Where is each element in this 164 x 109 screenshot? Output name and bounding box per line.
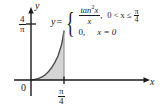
origin-label: 0 — [21, 82, 26, 93]
case-1-expression: tan2x x , — [79, 6, 105, 25]
case-2-condition: x = 0 — [97, 28, 116, 37]
equation-case-2: 0, x = 0 — [79, 28, 140, 37]
y-tick-fraction: 4 π — [19, 15, 26, 34]
y-tick-denominator: π — [19, 25, 26, 34]
equation-cases: tan2x x , 0 < x ≤ π 4 0, x = 0 — [79, 6, 140, 37]
y-tick-label: 4 π — [19, 14, 26, 34]
case-1-comma: , — [100, 11, 102, 20]
case-1-condition-fraction: π 4 — [134, 8, 140, 24]
x-axis-label: x — [150, 76, 154, 87]
x-tick-label: π 4 — [58, 86, 65, 106]
fraction-denominator: x — [79, 16, 101, 25]
equation-brace: { — [66, 10, 75, 33]
equation-case-1: tan2x x , 0 < x ≤ π 4 — [79, 6, 140, 25]
case-2-value: 0, — [79, 28, 86, 37]
equation-equals-sign: = — [56, 16, 62, 27]
function-graph-figure: y x 0 4 π π 4 y = { tan2x x — [0, 0, 164, 109]
case-1-condition-denominator: 4 — [134, 16, 140, 24]
x-tick-denominator: 4 — [58, 97, 65, 106]
tan-squared-over-x-fraction: tan2x x — [79, 6, 101, 25]
x-tick-fraction: π 4 — [58, 87, 65, 106]
case-1-condition: 0 < x ≤ π 4 — [107, 8, 139, 24]
equation-lhs: y — [51, 16, 55, 27]
piecewise-equation: y = { tan2x x , 0 < x ≤ π 4 — [51, 6, 139, 37]
numerator-variable: x — [94, 5, 98, 15]
fraction-numerator: tan2x — [79, 6, 101, 16]
y-axis-arrow — [28, 7, 33, 14]
y-axis-label: y — [35, 0, 39, 11]
tan-function-name: tan — [81, 5, 92, 15]
case-1-condition-text: 0 < x ≤ — [107, 11, 131, 20]
